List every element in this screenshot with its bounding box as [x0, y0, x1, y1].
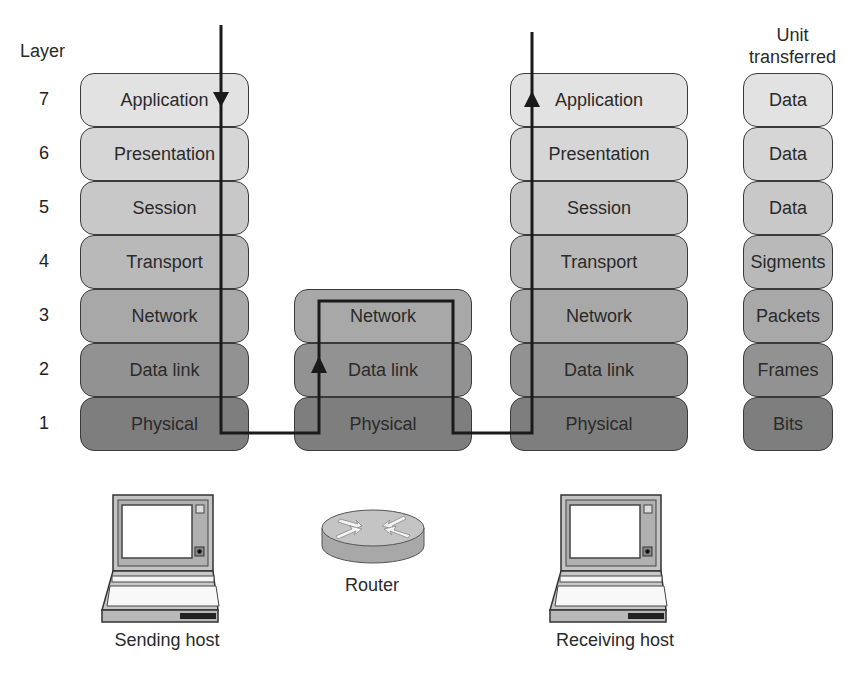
- unit-layer-5: Data: [743, 181, 833, 235]
- receiving-layer-physical: Physical: [510, 397, 688, 451]
- laptop-icon: [548, 490, 678, 625]
- router-layer-network: Network: [294, 289, 472, 343]
- layer-number-7: 7: [34, 89, 54, 110]
- layer-number-6: 6: [34, 143, 54, 164]
- layer-column-header: Layer: [20, 40, 65, 62]
- receiving-host-caption: Receiving host: [530, 630, 700, 651]
- receiving-layer-transport: Transport: [510, 235, 688, 289]
- sending-layer-data-link: Data link: [80, 343, 249, 397]
- unit-layer-4: Sigments: [743, 235, 833, 289]
- sending-layer-session: Session: [80, 181, 249, 235]
- layer-number-5: 5: [34, 197, 54, 218]
- router-stack: Network Data link Physical: [294, 289, 472, 451]
- unit-layer-1: Bits: [743, 397, 833, 451]
- sending-layer-presentation: Presentation: [80, 127, 249, 181]
- receiving-layer-data-link: Data link: [510, 343, 688, 397]
- unit-layer-7: Data: [743, 73, 833, 127]
- router-caption: Router: [322, 575, 422, 596]
- sending-layer-transport: Transport: [80, 235, 249, 289]
- router-icon: [318, 502, 428, 572]
- receiving-layer-network: Network: [510, 289, 688, 343]
- sending-host-stack: Application Presentation Session Transpo…: [80, 73, 249, 451]
- layer-number-4: 4: [34, 251, 54, 272]
- sending-layer-network: Network: [80, 289, 249, 343]
- router-layer-data-link: Data link: [294, 343, 472, 397]
- unit-layer-6: Data: [743, 127, 833, 181]
- unit-header-line2: transferred: [740, 46, 845, 68]
- sending-host-caption: Sending host: [92, 630, 242, 651]
- sending-layer-physical: Physical: [80, 397, 249, 451]
- sending-layer-application: Application: [80, 73, 249, 127]
- unit-layer-2: Frames: [743, 343, 833, 397]
- receiving-layer-application: Application: [510, 73, 688, 127]
- receiving-layer-presentation: Presentation: [510, 127, 688, 181]
- router-layer-physical: Physical: [294, 397, 472, 451]
- laptop-icon: [100, 490, 230, 625]
- unit-transferred-stack: Data Data Data Sigments Packets Frames B…: [743, 73, 833, 451]
- unit-layer-3: Packets: [743, 289, 833, 343]
- layer-number-3: 3: [34, 305, 54, 326]
- layer-number-1: 1: [34, 413, 54, 434]
- unit-transferred-header: Unit transferred: [740, 24, 845, 68]
- unit-header-line1: Unit: [740, 24, 845, 46]
- layer-number-2: 2: [34, 359, 54, 380]
- receiving-host-stack: Application Presentation Session Transpo…: [510, 73, 688, 451]
- receiving-layer-session: Session: [510, 181, 688, 235]
